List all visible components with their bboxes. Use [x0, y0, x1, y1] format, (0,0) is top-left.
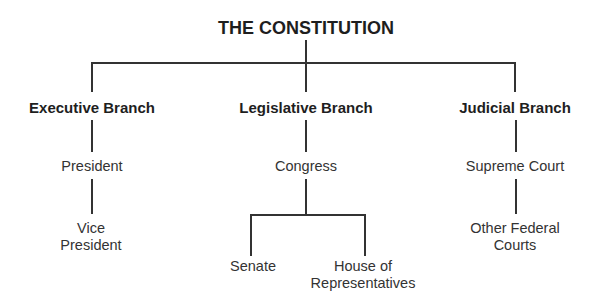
connector-line	[515, 179, 517, 214]
vice-president-node: Vice President	[60, 220, 121, 254]
connector-line	[305, 179, 307, 216]
house-node: House of Representatives	[311, 258, 416, 292]
connector-line	[514, 62, 516, 92]
president-node: President	[61, 158, 122, 175]
connector-line	[515, 120, 517, 152]
connector-line	[364, 214, 366, 256]
node-label-line: Courts	[470, 237, 559, 254]
other-federal-courts-node: Other Federal Courts	[470, 220, 559, 254]
connector-line	[92, 62, 515, 64]
node-label-line: House of	[311, 258, 416, 275]
executive-branch: Executive Branch	[29, 99, 155, 116]
node-label-line: Senate	[230, 258, 276, 275]
node-label-line: President	[60, 237, 121, 254]
connector-line	[250, 214, 252, 256]
node-label-line: Representatives	[311, 275, 416, 292]
connector-line	[305, 120, 307, 152]
judicial-branch: Judicial Branch	[459, 99, 571, 116]
connector-line	[251, 214, 366, 216]
connector-line	[91, 62, 93, 92]
supreme-court-node: Supreme Court	[466, 158, 564, 175]
chart-title: THE CONSTITUTION	[218, 20, 394, 37]
node-label-line: Vice	[60, 220, 121, 237]
congress-node: Congress	[275, 158, 337, 175]
node-label-line: Other Federal	[470, 220, 559, 237]
connector-line	[91, 120, 93, 152]
legislative-branch: Legislative Branch	[239, 99, 372, 116]
senate-node: Senate	[230, 258, 276, 275]
connector-line	[91, 179, 93, 214]
connector-line	[305, 40, 307, 92]
